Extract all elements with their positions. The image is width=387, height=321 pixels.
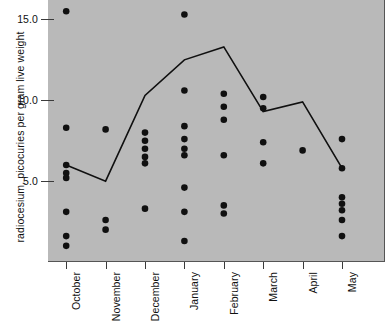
x-tick-label-text: October [70,272,82,310]
data-point [142,160,149,167]
data-point [221,103,228,110]
data-point [260,94,267,101]
x-tick-mark [303,262,304,269]
x-tick-mark [106,262,107,269]
x-tick-label-text: February [228,272,240,315]
y-tick-label: 5.0 [23,175,38,187]
x-tick-label-text: April [307,272,319,294]
data-point [142,145,149,152]
y-tick-mark-inner [48,181,54,182]
y-tick-label: 10.0 [17,94,38,106]
trend-line [66,47,342,181]
data-point [339,207,346,214]
data-point [63,8,70,15]
data-point [339,194,346,201]
data-point [63,162,70,169]
y-tick-mark [41,181,48,182]
data-point [181,209,188,216]
y-tick-mark-inner [48,100,54,101]
data-point [221,202,228,209]
data-point [339,136,346,143]
data-point [260,139,267,146]
data-point [63,243,70,250]
x-tick-label-text: March [267,272,279,302]
x-tick-label-text: November [110,272,122,321]
y-tick-mark [41,100,48,101]
chart-figure: radiocesium, picocuries per gram live we… [0,0,387,321]
data-point [142,154,149,161]
x-tick-mark [184,262,185,269]
data-point [260,105,267,112]
y-axis: 5.010.015.0 [0,0,48,262]
data-point [181,136,188,143]
data-point [63,124,70,131]
data-point [102,226,109,233]
data-point [102,126,109,133]
x-axis: OctoberNovemberDecemberJanuaryFebruaryMa… [48,262,385,321]
data-point [299,147,306,154]
data-point [339,217,346,224]
data-point [102,217,109,224]
plot-svg [48,0,385,262]
x-tick-mark [145,262,146,269]
x-tick-mark [342,262,343,269]
data-point [221,91,228,98]
data-point [181,11,188,18]
y-tick-mark-inner [48,19,54,20]
x-tick-label-text: January [188,272,200,310]
data-point [221,210,228,217]
data-point [63,209,70,216]
data-point [339,233,346,240]
data-point [221,152,228,159]
data-point [63,233,70,240]
data-point [181,87,188,94]
x-tick-mark [66,262,67,269]
data-point [181,184,188,191]
data-point [181,145,188,152]
data-point [63,175,70,182]
y-tick-label: 15.0 [17,13,38,25]
scatter-points [63,8,345,249]
data-point [142,137,149,144]
data-point [221,116,228,123]
y-tick-mark [41,19,48,20]
data-point [142,129,149,136]
data-point [181,152,188,159]
data-point [181,123,188,130]
plot-area [48,0,385,262]
data-point [339,165,346,172]
data-point [181,238,188,245]
trend-polyline [66,47,342,181]
x-tick-mark [263,262,264,269]
data-point [260,160,267,167]
x-tick-mark [224,262,225,269]
x-tick-label-text: December [149,272,161,321]
data-point [142,205,149,212]
data-point [339,200,346,207]
x-tick-label-text: May [346,272,358,292]
